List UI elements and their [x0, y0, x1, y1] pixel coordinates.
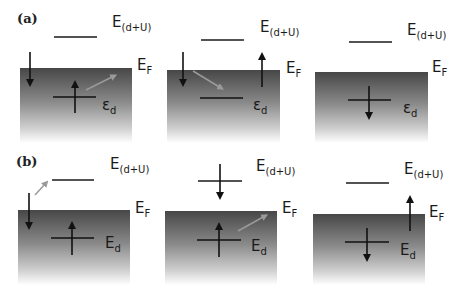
label-main: ε	[403, 99, 411, 117]
panel-label-b: (b)	[16, 154, 37, 169]
fermi-level-label: EF	[286, 59, 301, 79]
lower-level-label: Ed	[251, 237, 267, 257]
anderson-impurity-diagram: (a) (b) E(d+U) EF εd E(d+U) EF εd E(d+U)…	[0, 0, 460, 299]
panel-a1	[20, 37, 132, 143]
fermi-level-label: EF	[432, 58, 447, 78]
panel-a2	[167, 40, 280, 143]
panel-b3	[313, 183, 425, 285]
lower-level-label: εd	[102, 96, 116, 116]
label-sub: F	[295, 68, 301, 79]
label-sub: d	[409, 250, 415, 261]
upper-level-label: E(d+U)	[112, 13, 151, 33]
label-sub: (d+U)	[265, 166, 295, 177]
label-sub: F	[441, 67, 447, 78]
label-sub: d	[114, 243, 120, 254]
lower-level-label: εd	[403, 99, 417, 119]
label-sub: d	[110, 105, 116, 116]
fermi-level-label: EF	[137, 56, 152, 76]
label-sub: F	[146, 65, 152, 76]
label-sub: F	[291, 208, 297, 219]
label-sub: (d+U)	[416, 30, 446, 41]
upper-level-label: E(d+U)	[110, 155, 149, 175]
lower-level-label: εd	[253, 96, 267, 116]
label-sub: F	[144, 208, 150, 219]
label-sub: d	[411, 108, 417, 119]
panel-b1	[18, 180, 130, 285]
upper-level-label: E(d+U)	[404, 160, 443, 180]
label-sub: d	[260, 246, 266, 257]
label-sub: F	[438, 212, 444, 223]
label-sub: d	[261, 105, 267, 116]
diagram-canvas	[0, 0, 460, 299]
panel-b2	[165, 164, 277, 285]
label-sub: (d+U)	[413, 169, 443, 180]
upper-level-label: E(d+U)	[407, 21, 446, 41]
fermi-level-label: EF	[282, 199, 297, 219]
fermi-level-label: EF	[429, 203, 444, 223]
lower-level-label: Ed	[400, 241, 416, 261]
upper-level-label: E(d+U)	[256, 157, 295, 177]
label-main: ε	[102, 96, 110, 114]
panel-a3	[315, 42, 428, 143]
fermi-level-label: EF	[135, 199, 150, 219]
label-sub: (d+U)	[269, 27, 299, 38]
label-sub: (d+U)	[119, 164, 149, 175]
label-sub: (d+U)	[121, 22, 151, 33]
label-main: ε	[253, 96, 261, 114]
hop-arrow-icon	[35, 183, 46, 195]
lower-level-label: Ed	[105, 234, 121, 254]
upper-level-label: E(d+U)	[260, 18, 299, 38]
panel-label-a: (a)	[17, 11, 38, 26]
